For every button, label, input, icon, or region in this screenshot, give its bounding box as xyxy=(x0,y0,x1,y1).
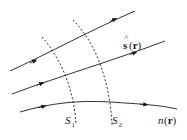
ray-3 xyxy=(20,101,177,112)
s1-label: S 1 xyxy=(65,114,76,129)
svg-text:(r): (r) xyxy=(164,114,177,127)
wavefront-s2 xyxy=(73,20,112,125)
refractive-index-label: n (r) xyxy=(158,114,177,127)
ray-1 xyxy=(10,11,135,71)
svg-text:1: 1 xyxy=(72,121,76,129)
arrow-icon xyxy=(38,106,44,107)
svg-text:S: S xyxy=(65,114,71,126)
ray-diagram: ^ s (r) S 1 S 2 n (r) xyxy=(0,0,187,140)
svg-text:S: S xyxy=(112,114,118,126)
direction-label: ^ s (r) xyxy=(123,34,142,52)
s-symbol: s xyxy=(123,39,128,51)
s-arg: (r) xyxy=(129,39,142,52)
svg-text:2: 2 xyxy=(119,121,123,129)
wavefront-s1 xyxy=(42,37,76,125)
s2-label: S 2 xyxy=(112,114,123,129)
arrow-icon xyxy=(37,83,42,85)
ray-2 xyxy=(12,41,165,94)
